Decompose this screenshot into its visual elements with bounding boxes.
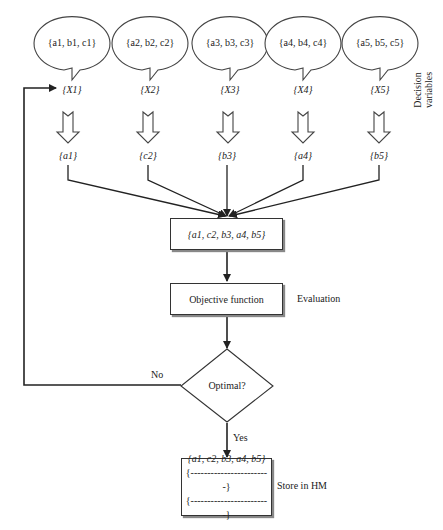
store-row-3: {------------------------} — [182, 494, 271, 522]
store-row-2: {------------------------} — [182, 466, 271, 494]
decision-variables-label: Decision variables — [412, 65, 434, 115]
optimal-question: Optimal? — [208, 380, 245, 391]
bubble-4 — [265, 17, 341, 80]
objective-function-box: Objective function — [170, 283, 283, 315]
selected-5: {b5} — [370, 150, 388, 161]
store-row-1: {a1, c2, b3, a4, b5} — [188, 452, 265, 466]
selected-1: {a1} — [59, 150, 77, 161]
store-in-hm-label: Store in HM — [277, 480, 327, 491]
variable-3: {X3} — [220, 84, 239, 95]
bubbles — [34, 17, 418, 80]
converging-lines — [68, 165, 379, 216]
bubble-5 — [342, 17, 418, 80]
bubble-2 — [112, 17, 188, 80]
combined-solution-box: {a1, c2, b3, a4, b5} — [170, 218, 283, 250]
hollow-arrow-4 — [292, 112, 314, 143]
selected-3: {b3} — [218, 150, 236, 161]
no-label: No — [151, 369, 163, 380]
variable-2: {X2} — [140, 84, 159, 95]
hollow-arrow-3 — [217, 112, 239, 143]
hollow-arrows — [57, 112, 390, 143]
variable-1: {X1} — [62, 84, 81, 95]
bubble-label-3: {a3, b3, c3} — [206, 37, 254, 48]
bubble-label-1: {a1, b1, c1} — [48, 37, 96, 48]
bubble-label-2: {a2, b2, c2} — [126, 37, 174, 48]
hollow-arrow-5 — [368, 112, 390, 143]
bubble-1 — [34, 17, 110, 80]
yes-label: Yes — [233, 432, 248, 443]
bubble-label-4: {a4, b4, c4} — [279, 37, 327, 48]
bubble-label-5: {a5, b5, c5} — [356, 37, 404, 48]
flowchart-canvas — [0, 0, 443, 530]
hollow-arrow-2 — [137, 112, 159, 143]
selected-4: {a4} — [294, 150, 312, 161]
bubble-3 — [192, 17, 268, 80]
selected-2: {c2} — [139, 150, 156, 161]
hollow-arrow-1 — [57, 112, 79, 143]
variable-4: {X4} — [293, 84, 312, 95]
harmony-memory-box: {a1, c2, b3, a4, b5} {------------------… — [181, 458, 272, 516]
evaluation-label: Evaluation — [297, 293, 340, 304]
variable-5: {X5} — [370, 84, 389, 95]
